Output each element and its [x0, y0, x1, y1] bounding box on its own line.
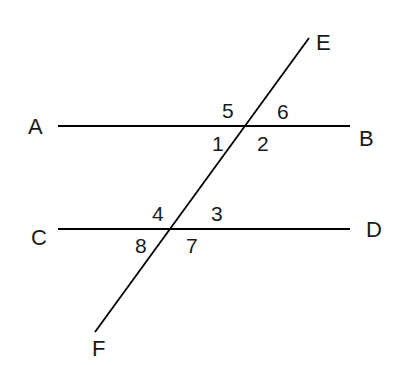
- point-label-b: B: [359, 126, 374, 151]
- angle-label-8: 8: [135, 234, 147, 257]
- angle-label-4: 4: [152, 202, 164, 225]
- point-label-c: C: [31, 225, 47, 250]
- parallel-lines-diagram: A B C D E F 1 2 3 4 5 6 7 8: [0, 0, 401, 365]
- angle-label-6: 6: [277, 100, 289, 123]
- angle-label-2: 2: [257, 132, 269, 155]
- angle-label-3: 3: [211, 202, 223, 225]
- point-label-a: A: [28, 114, 43, 139]
- angle-label-7: 7: [186, 234, 198, 257]
- angle-label-5: 5: [222, 99, 234, 122]
- point-label-f: F: [92, 336, 105, 361]
- point-label-e: E: [316, 30, 331, 55]
- angle-label-1: 1: [212, 132, 224, 155]
- transversal-ef: [95, 38, 309, 332]
- point-label-d: D: [366, 217, 382, 242]
